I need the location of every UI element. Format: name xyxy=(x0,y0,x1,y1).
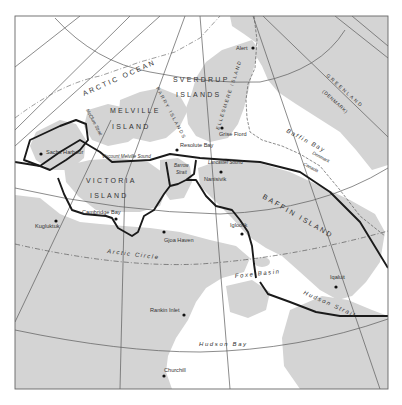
label-churchill: Churchill xyxy=(164,367,186,373)
label-grise-fiord: Grise Fiord xyxy=(219,131,247,137)
label-sachs-harbour: Sachs Harbour xyxy=(46,149,83,155)
label-rankin-inlet: Rankin Inlet xyxy=(150,307,180,313)
label-sverdrup-islands: ISLANDS xyxy=(176,91,221,98)
label-barrow-strait-1: Barrow xyxy=(174,163,189,168)
label-victoria-island: ISLAND xyxy=(90,192,129,199)
label-cambridge-bay: Cambridge Bay xyxy=(82,209,121,215)
label-melville-island: ISLAND xyxy=(112,123,151,130)
label-alert: Alert xyxy=(236,45,248,51)
label-viscount-melville-sound: Viscount Melville Sound xyxy=(102,154,151,159)
label-iqaluit: Iqaluit xyxy=(330,274,345,280)
label-victoria: VICTORIA xyxy=(86,177,137,184)
label-sverdrup: SVERDRUP xyxy=(173,76,230,83)
label-nanisivik: Nanisivik xyxy=(204,176,227,182)
label-kugluktuk: Kugluktuk xyxy=(35,223,60,229)
label-resolute-bay: Resolute Bay xyxy=(180,142,213,148)
label-hudson-bay: Hudson Bay xyxy=(199,341,248,347)
arctic-canada-map: ARCTIC OCEAN SVERDRUP ISLANDS MELVILLE I… xyxy=(0,0,402,405)
label-gjoa-haven: Gjoa Haven xyxy=(164,237,194,243)
label-barrow-strait-2: Strait xyxy=(176,170,187,175)
label-melville: MELVILLE xyxy=(110,107,161,114)
label-lancaster-sound: Lancaster Sound xyxy=(208,160,243,165)
label-igloolik: Igloolik xyxy=(230,222,248,228)
